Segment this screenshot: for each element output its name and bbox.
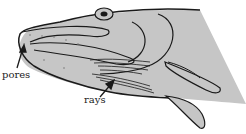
pelvic-fin bbox=[166, 96, 205, 128]
pores-label: pores bbox=[2, 70, 30, 80]
rays-label: rays bbox=[84, 95, 106, 105]
pupil bbox=[101, 12, 108, 17]
fish-head-diagram bbox=[0, 0, 246, 134]
